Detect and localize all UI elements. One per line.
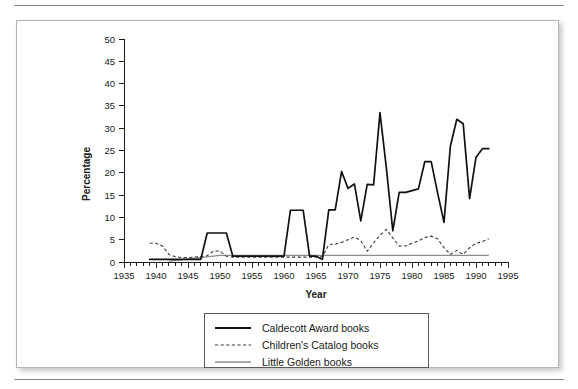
chart-series-group (150, 113, 489, 262)
x-axis-title: Year (305, 289, 326, 300)
figure-frame: 05101520253035404550 1935194019451950195… (16, 20, 559, 368)
x-tick-label: 1955 (241, 270, 262, 281)
x-tick-label: 1960 (273, 270, 294, 281)
series-line-little-golden-books (169, 255, 489, 261)
x-tick-label: 1990 (465, 270, 486, 281)
series-line-childrens-catalog-books (150, 229, 489, 257)
bottom-horizontal-rule (14, 379, 564, 380)
y-tick-label: 35 (104, 100, 115, 111)
y-tick-label: 10 (104, 212, 115, 223)
y-tick-label: 15 (104, 190, 115, 201)
y-tick-label: 50 (104, 34, 115, 45)
x-tick-label: 1980 (401, 270, 422, 281)
series-line-caldecott-award-books (150, 113, 489, 260)
figure-page: 05101520253035404550 1935194019451950195… (0, 0, 578, 389)
x-tick-label: 1995 (497, 270, 518, 281)
x-tick-label: 1950 (209, 270, 230, 281)
legend-label: Caldecott Award books (262, 322, 369, 334)
x-tick-label: 1940 (145, 270, 166, 281)
x-tick-label: 1985 (433, 270, 454, 281)
y-tick-label: 40 (104, 78, 115, 89)
line-chart: 05101520253035404550 1935194019451950195… (17, 21, 560, 369)
y-axis-ticks (119, 39, 124, 262)
x-tick-label: 1965 (305, 270, 326, 281)
x-tick-label: 1970 (337, 270, 358, 281)
y-tick-label: 25 (104, 145, 115, 156)
x-tick-label: 1975 (369, 270, 390, 281)
y-tick-label: 45 (104, 56, 115, 67)
y-tick-label: 5 (110, 234, 115, 245)
legend-label: Little Golden books (262, 356, 352, 368)
top-horizontal-rule (14, 5, 564, 6)
y-axis-title: Percentage (81, 147, 92, 201)
y-axis-tick-labels: 05101520253035404550 (104, 34, 115, 268)
x-tick-label: 1945 (177, 270, 198, 281)
chart-plot-area: 05101520253035404550 1935194019451950195… (17, 21, 560, 369)
chart-legend: Caldecott Award booksChildren's Catalog … (204, 313, 428, 368)
y-tick-label: 0 (110, 257, 115, 268)
y-tick-label: 30 (104, 123, 115, 134)
x-axis-tick-labels: 1935194019451950195519601965197019751980… (113, 270, 518, 281)
legend-label: Children's Catalog books (262, 339, 378, 351)
y-tick-label: 20 (104, 167, 115, 178)
x-tick-label: 1935 (113, 270, 134, 281)
